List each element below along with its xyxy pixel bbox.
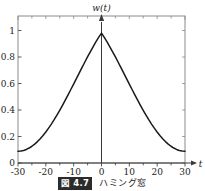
- x-tick-label: 10: [124, 167, 136, 177]
- hamming-window-chart: 0 0.2 0.4 0.6 0.8 1 -30 -20 -10 0 10 20 …: [0, 0, 205, 191]
- y-tick-label: 0.6: [1, 79, 16, 89]
- chart-title: w(t): [92, 3, 111, 13]
- x-tick-label: -30: [11, 167, 26, 177]
- figure-caption: 図 4.7 ハミング窓: [0, 177, 205, 191]
- y-tick-label: 0.2: [1, 132, 15, 142]
- y-tick-label: 0.8: [1, 52, 16, 62]
- x-tick-label: 30: [179, 167, 191, 177]
- x-tick-labels: -30 -20 -10 0 10 20 30: [11, 167, 191, 177]
- figure-number-badge: 図 4.7: [58, 177, 92, 190]
- figure-container: 0 0.2 0.4 0.6 0.8 1 -30 -20 -10 0 10 20 …: [0, 0, 205, 191]
- x-axis-label: t: [199, 159, 203, 169]
- figure-caption-text: ハミング窓: [99, 177, 147, 189]
- y-tick-label: 1: [9, 26, 15, 36]
- y-tick-labels: 0 0.2 0.4 0.6 0.8 1: [1, 26, 16, 169]
- x-tick-label: 0: [99, 167, 105, 177]
- x-tick-label: -20: [39, 167, 54, 177]
- y-tick-label: 0.4: [1, 105, 16, 115]
- x-tick-label: 20: [151, 167, 163, 177]
- x-axis-ticks: [18, 163, 185, 167]
- t-axis-arrow: [185, 161, 197, 166]
- x-tick-label: -10: [66, 167, 81, 177]
